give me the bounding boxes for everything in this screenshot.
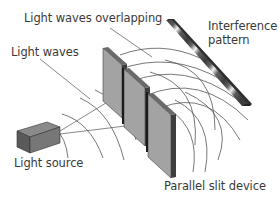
label-light-waves-overlapping: Light waves overlapping <box>24 12 162 25</box>
label-interference-line1: Interference <box>208 20 277 33</box>
label-light-waves: Light waves <box>11 46 79 59</box>
label-interference-line2: pattern <box>208 34 250 47</box>
label-light-source: Light source <box>14 157 83 170</box>
double-slit-diagram: Light waves overlapping Light waves Inte… <box>0 0 280 197</box>
slit-device <box>103 47 176 178</box>
label-parallel-slit-device: Parallel slit device <box>164 180 266 193</box>
light-source-box <box>17 122 60 153</box>
